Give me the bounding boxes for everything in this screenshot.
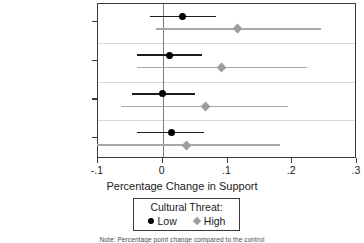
- plot-area: [97, 3, 356, 158]
- x-axis-title: Percentage Change in Support: [0, 180, 364, 192]
- point-estimate-marker: [159, 90, 166, 97]
- x-axis-tick: [97, 158, 98, 163]
- figure-note: Note: Percentage point change compared t…: [0, 236, 364, 243]
- legend-item-label: Low: [158, 215, 177, 227]
- x-axis-tick-label: .3: [336, 164, 364, 176]
- x-axis-tick: [227, 158, 228, 163]
- legend: Cultural Threat: LowHigh: [133, 198, 240, 231]
- x-axis-tick: [291, 158, 292, 163]
- y-axis-tick: [92, 98, 98, 99]
- x-axis-tick-label: .1: [207, 164, 247, 176]
- circle-marker-icon: [148, 218, 154, 224]
- point-estimate-marker: [201, 101, 211, 111]
- gridline: [98, 82, 355, 83]
- legend-item-low[interactable]: Low: [148, 215, 177, 227]
- legend-items: LowHigh: [139, 215, 234, 227]
- gridline: [98, 120, 355, 121]
- y-axis-tick: [92, 137, 98, 138]
- legend-title: Cultural Threat:: [139, 201, 234, 214]
- point-estimate-marker: [168, 129, 175, 136]
- x-axis-tick: [162, 158, 163, 163]
- x-axis-tick-label: 0: [142, 164, 182, 176]
- x-axis-tick-label: .2: [271, 164, 311, 176]
- point-estimate-marker: [232, 24, 242, 34]
- point-estimate-marker: [179, 13, 186, 20]
- diamond-marker-icon: [193, 217, 201, 225]
- y-axis-tick: [92, 21, 98, 22]
- zero-reference-line: [163, 4, 164, 157]
- legend-item-label: High: [204, 215, 226, 227]
- x-axis-tick: [356, 158, 357, 163]
- y-axis-tick: [92, 60, 98, 61]
- point-estimate-marker: [182, 140, 192, 150]
- coefficient-plot-figure: Long TimePsychologicalNot Know ReunionAd…: [0, 0, 364, 243]
- x-axis-tick-label: -.1: [77, 164, 117, 176]
- legend-item-high[interactable]: High: [194, 215, 226, 227]
- gridline: [98, 43, 355, 44]
- point-estimate-marker: [166, 52, 173, 59]
- point-estimate-marker: [216, 63, 226, 73]
